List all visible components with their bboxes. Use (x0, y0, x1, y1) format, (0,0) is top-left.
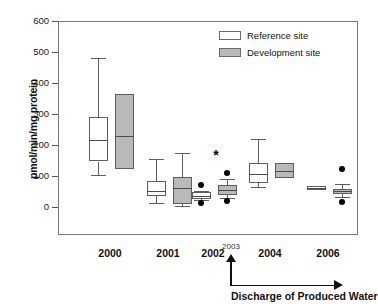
y-axis-tick-label: 500 (33, 46, 49, 57)
arrow-right-stem (230, 285, 335, 287)
significance-asterisk: * (213, 148, 218, 162)
boxplot-development-site-2006 (333, 22, 352, 236)
boxplot-development-site-2000 (115, 22, 134, 236)
median-line (147, 191, 166, 192)
whisker-upper (258, 139, 259, 163)
whisker-cap-lower (335, 197, 350, 198)
outlier-point (339, 199, 345, 205)
whisker-cap-upper (149, 159, 164, 160)
whisker-upper (182, 153, 183, 177)
whisker-cap-upper (175, 153, 190, 154)
boxplot-reference-site-2000 (89, 22, 108, 236)
median-line (89, 140, 108, 141)
outlier-point (198, 182, 204, 188)
y-axis-title: pmol/min/mg protein (27, 49, 39, 209)
outlier-point (198, 200, 204, 206)
x-axis-label-2001: 2001 (156, 247, 179, 259)
whisker-cap-upper (220, 179, 235, 180)
median-line (218, 190, 237, 191)
whisker-cap-lower (91, 175, 106, 176)
boxplot-reference-site-2002 (192, 22, 211, 236)
x-axis-label-2006: 2006 (316, 247, 339, 259)
y-axis-tick-label: 0 (44, 201, 49, 212)
x-axis-label-2000: 2000 (98, 247, 121, 259)
y-axis-tick-label: 600 (33, 15, 49, 26)
outlier-point (339, 166, 345, 172)
y-axis-tick-label: 400 (33, 77, 49, 88)
median-line (192, 196, 211, 197)
arrow-right-head-icon (334, 280, 343, 290)
legend-swatch-reference-site (219, 31, 241, 40)
legend-item-development-site: Development site (219, 47, 320, 58)
median-line (249, 174, 268, 175)
boxplot-development-site-2001 (173, 22, 192, 236)
whisker-lower (98, 162, 99, 176)
y-axis-tick-label: 100 (33, 170, 49, 181)
whisker-cap-lower (175, 206, 190, 207)
legend-item-reference-site: Reference site (219, 30, 308, 41)
median-line (115, 136, 134, 137)
x-axis-label-2004: 2004 (258, 247, 281, 259)
box-iqr (89, 117, 108, 162)
whisker-upper (98, 58, 99, 116)
plot-area: * Reference site Development site (58, 21, 358, 235)
whisker-cap-lower (149, 203, 164, 204)
whisker-cap-upper (91, 58, 106, 59)
median-line (275, 171, 294, 172)
box-iqr (115, 94, 134, 168)
outlier-point (224, 170, 230, 176)
outlier-point (224, 198, 230, 204)
legend-swatch-development-site (219, 48, 241, 57)
legend-label-reference-site: Reference site (247, 30, 308, 41)
whisker-cap-upper (251, 139, 266, 140)
whisker-cap-lower (251, 187, 266, 188)
median-line (333, 191, 352, 192)
y-axis-tick-label: 300 (33, 108, 49, 119)
box-iqr (147, 181, 166, 196)
y-axis-tick-label: 200 (33, 139, 49, 150)
box-iqr (173, 177, 192, 204)
whisker-upper (156, 159, 157, 181)
median-line (173, 188, 192, 189)
arrow-up-stem (230, 261, 232, 286)
whisker-cap-upper (335, 184, 350, 185)
x-axis-caption: Discharge of Produced Water (231, 290, 378, 302)
x-axis-label-2003: 2003 (222, 242, 240, 251)
boxplot-reference-site-2001 (147, 22, 166, 236)
median-line (307, 188, 326, 189)
legend-label-development-site: Development site (247, 47, 320, 58)
